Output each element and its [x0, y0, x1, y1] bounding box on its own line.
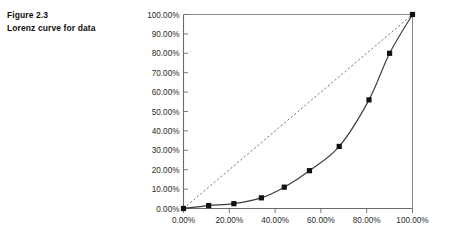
lorenz-curve-chart: 0.00%10.00%20.00%30.00%40.00%50.00%60.00…: [0, 0, 449, 238]
data-point-marker: [410, 12, 415, 17]
y-axis-tick-label: 70.00%: [152, 69, 180, 78]
x-axis-ticks: [184, 209, 413, 214]
y-axis-tick-label: 20.00%: [152, 166, 180, 175]
data-point-marker: [181, 206, 186, 211]
y-axis-tick-label: 100.00%: [147, 11, 179, 20]
y-axis-tick-label: 60.00%: [152, 88, 180, 97]
y-axis-tick-label: 10.00%: [152, 185, 180, 194]
y-axis-tick-label: 40.00%: [152, 127, 180, 136]
data-point-marker: [206, 203, 211, 208]
data-point-marker: [387, 51, 392, 56]
x-axis-tick-label: 80.00%: [353, 216, 381, 225]
y-axis-tick-label: 0.00%: [156, 205, 179, 214]
x-axis-tick-label: 40.00%: [261, 216, 289, 225]
y-axis-tick-labels: 0.00%10.00%20.00%30.00%40.00%50.00%60.00…: [147, 11, 179, 214]
x-axis-tick-label: 60.00%: [307, 216, 335, 225]
y-axis-tick-label: 30.00%: [152, 146, 180, 155]
x-axis-tick-label: 20.00%: [215, 216, 243, 225]
data-point-marker: [337, 144, 342, 149]
y-axis-tick-label: 80.00%: [152, 49, 180, 58]
y-axis-ticks: [184, 15, 189, 209]
x-axis-tick-label: 0.00%: [172, 216, 195, 225]
x-axis-tick-labels: 0.00%20.00%40.00%60.00%80.00%100.00%: [172, 216, 429, 225]
x-axis-tick-label: 100.00%: [396, 216, 428, 225]
data-point-marker: [366, 97, 371, 102]
data-point-marker: [307, 168, 312, 173]
data-point-marker: [282, 185, 287, 190]
y-axis-tick-label: 90.00%: [152, 30, 180, 39]
data-point-marker: [259, 195, 264, 200]
y-axis-tick-label: 50.00%: [152, 108, 180, 117]
figure-container: Figure 2.3 Lorenz curve for data 0.00%10…: [0, 0, 449, 238]
data-point-marker: [231, 201, 236, 206]
